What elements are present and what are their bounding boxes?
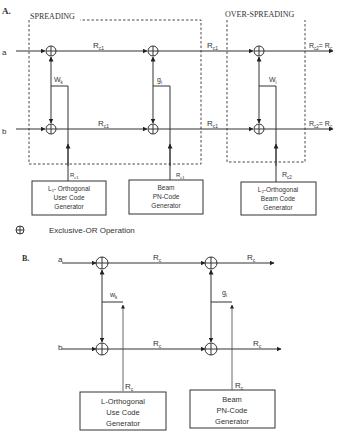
input-a-label: a — [2, 48, 7, 57]
rate-label: Rc1 — [70, 172, 79, 180]
l1-orthogonal-user-code-generator: L₁- Orthogonal User Code Generator — [32, 181, 106, 215]
legend-text: Exclusive-OR Operation — [49, 226, 135, 235]
spreading-region: SPREADING — [29, 12, 201, 164]
beam-pn-code-generator: Beam PN-Code Generator — [190, 390, 275, 428]
beam-pn-code-generator: Beam PN-Code Generator — [129, 180, 203, 214]
beam-pn-code-feed — [211, 270, 232, 390]
user-code-feed — [102, 270, 123, 391]
rate-label: Rc1 — [93, 41, 104, 51]
rate-label: Rc1 — [98, 119, 109, 129]
svg-text:Use Code: Use Code — [106, 408, 139, 417]
panel-b-label: B. — [22, 254, 29, 263]
rate-label: Rc — [253, 339, 262, 349]
xor-gate — [46, 124, 56, 134]
rate-label: Rc — [153, 339, 162, 349]
xor-gate — [148, 46, 158, 56]
gi-label: gi — [157, 76, 162, 85]
svg-text:PN-Code: PN-Code — [217, 406, 248, 415]
gi-label: gi — [222, 289, 227, 298]
xor-legend-icon — [16, 226, 24, 234]
rate-label: Rc2 — [282, 171, 292, 180]
xor-gate — [96, 257, 108, 269]
svg-text:User Code: User Code — [53, 194, 84, 201]
xor-gate — [205, 257, 217, 269]
xor-gate — [205, 343, 217, 355]
legend: Exclusive-OR Operation — [16, 226, 135, 235]
output-rate-label: Rc2= Rc — [309, 42, 333, 51]
xor-gate — [96, 343, 108, 355]
wk-label: wk — [109, 291, 118, 300]
rate-label: Rc — [153, 253, 162, 263]
wk-label: Wk — [54, 76, 64, 85]
svg-text:Generator: Generator — [106, 419, 140, 428]
svg-text:Generator: Generator — [263, 204, 293, 211]
input-b-label: b — [58, 343, 63, 352]
l2-orthogonal-beam-code-generator: L₂-Orthogonal Beam Code Generator — [241, 182, 316, 215]
wi-label: Wi — [269, 76, 277, 85]
svg-text:Beam: Beam — [158, 184, 175, 191]
l-orthogonal-user-code-generator: L-Orthogonal Use Code Generator — [80, 392, 166, 430]
xor-gate — [148, 124, 158, 134]
rate-label: Rc — [125, 382, 134, 392]
rate-label: Rc1 — [207, 119, 218, 129]
svg-text:Generator: Generator — [215, 417, 249, 426]
xor-gate — [46, 46, 56, 56]
xor-gate — [254, 124, 264, 134]
spreading-block-diagram: A. SPREADING OVER-SPREADING a b — [0, 0, 350, 437]
spreading-title: SPREADING — [30, 12, 75, 21]
svg-text:L-Orthogonal: L-Orthogonal — [101, 397, 145, 406]
svg-text:Beam Code: Beam Code — [261, 195, 296, 202]
panel-a-label: A. — [2, 6, 11, 16]
xor-gate — [254, 46, 264, 56]
svg-text:Generator: Generator — [54, 203, 84, 210]
rate-label: Rc1 — [207, 41, 218, 51]
rate-label: Rc — [247, 253, 256, 263]
svg-text:L₁- Orthogonal: L₁- Orthogonal — [48, 185, 90, 193]
overspreading-title: OVER-SPREADING — [225, 10, 295, 19]
output-rate-label: Rc2= Rc — [309, 120, 333, 129]
svg-text:L₂-Orthogonal: L₂-Orthogonal — [258, 186, 299, 194]
input-b-label: b — [2, 127, 7, 136]
svg-text:PN-Code: PN-Code — [153, 193, 180, 200]
svg-text:Generator: Generator — [151, 202, 181, 209]
rate-label: Rc1 — [176, 172, 185, 180]
svg-text:Beam: Beam — [222, 395, 242, 404]
